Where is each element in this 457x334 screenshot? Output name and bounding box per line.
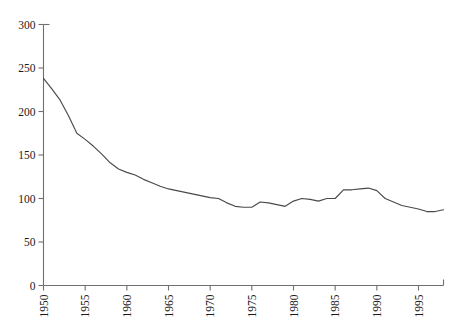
y-tick-label: 200 bbox=[18, 106, 36, 118]
y-tick-label: 250 bbox=[18, 62, 36, 74]
y-tick-label: 300 bbox=[18, 19, 36, 31]
x-axis-ticks bbox=[44, 286, 419, 291]
x-tick-label: 1975 bbox=[246, 294, 258, 317]
x-tick-label: 1965 bbox=[163, 294, 175, 317]
chart-svg: 050100150200250300 195019551960196519701… bbox=[0, 0, 457, 334]
x-tick-label: 1960 bbox=[121, 294, 133, 317]
y-tick-label: 100 bbox=[18, 193, 36, 205]
line-chart: 050100150200250300 195019551960196519701… bbox=[0, 0, 457, 334]
y-axis-ticks bbox=[39, 25, 444, 286]
y-tick-label: 150 bbox=[18, 149, 36, 161]
x-tick-label: 1955 bbox=[79, 294, 91, 317]
x-tick-label: 1995 bbox=[413, 294, 425, 317]
y-tick-label: 50 bbox=[24, 236, 36, 248]
x-tick-label: 1990 bbox=[371, 294, 383, 317]
figure-container: 050100150200250300 195019551960196519701… bbox=[0, 0, 457, 334]
x-tick-label: 1950 bbox=[38, 294, 50, 317]
y-tick-label: 0 bbox=[30, 280, 36, 292]
data-line-series-1 bbox=[44, 78, 444, 211]
x-tick-label: 1970 bbox=[204, 294, 216, 317]
y-axis-tick-labels: 050100150200250300 bbox=[18, 19, 36, 292]
x-tick-label: 1985 bbox=[329, 294, 341, 317]
x-axis-tick-labels: 1950195519601965197019751980198519901995 bbox=[38, 294, 425, 317]
x-tick-label: 1980 bbox=[288, 294, 300, 317]
